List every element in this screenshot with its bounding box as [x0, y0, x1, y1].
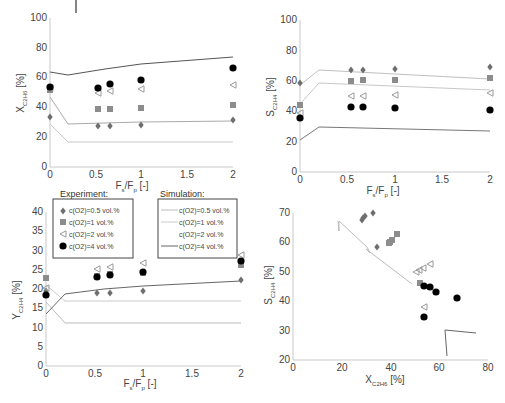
figure: 02040 6080100 00.51 1.52 Fs/Fp [-] XC2H6…: [0, 0, 505, 403]
legend-sim-entry-2: c(O2)=2 vol.%: [179, 231, 224, 239]
y-ticks: 02040 6080100: [280, 14, 297, 177]
svg-text:20: 20: [36, 131, 48, 142]
svg-text:2: 2: [230, 169, 236, 180]
svg-text:1: 1: [392, 174, 398, 185]
x-ticks: 00.51 1.52: [43, 368, 244, 379]
svg-text:25: 25: [32, 264, 44, 275]
y-ticks: 051015 2025303540: [32, 206, 44, 371]
exp-4-markers: [296, 103, 493, 121]
svg-text:100: 100: [280, 14, 297, 25]
svg-text:1: 1: [138, 169, 144, 180]
svg-text:1.5: 1.5: [180, 169, 194, 180]
svg-text:60: 60: [36, 71, 48, 82]
svg-text:40: 40: [279, 295, 291, 306]
svg-text:60: 60: [279, 236, 291, 247]
svg-text:2: 2: [487, 174, 493, 185]
y-axis-label: XC2H6 [%]: [15, 73, 28, 112]
svg-text:20: 20: [336, 362, 348, 373]
svg-text:60: 60: [433, 362, 445, 373]
svg-text:0: 0: [297, 174, 303, 185]
svg-text:1.5: 1.5: [435, 174, 449, 185]
exp-0.5-markers: [359, 209, 379, 250]
exp-2-markers: [47, 82, 236, 96]
x-axis-label: Fs/Fp [-]: [366, 185, 399, 198]
x-ticks: 00.51 1.52: [47, 169, 236, 180]
legend-experiment-title: Experiment:: [60, 189, 108, 199]
legend-sim-entry-1: c(O2)=1 vol.%: [179, 219, 224, 227]
legend-sim-entry-4: c(O2)=4 vol.%: [179, 243, 224, 251]
sim-line-4: [300, 127, 490, 140]
svg-text:10: 10: [32, 322, 44, 333]
svg-text:80: 80: [286, 45, 298, 56]
svg-text:1.5: 1.5: [185, 368, 199, 379]
svg-text:30: 30: [32, 245, 44, 256]
legend-sim-entry-0.5: c(O2)=0.5 vol.%: [179, 207, 229, 215]
svg-text:70: 70: [279, 207, 291, 218]
svg-text:0: 0: [290, 362, 296, 373]
svg-text:15: 15: [32, 302, 44, 313]
svg-text:50: 50: [279, 266, 291, 277]
sim-line-2: [445, 330, 476, 356]
y-ticks: 203040 506070: [279, 207, 291, 365]
svg-text:0: 0: [43, 368, 49, 379]
svg-text:0: 0: [47, 169, 53, 180]
svg-text:80: 80: [36, 42, 48, 53]
svg-text:80: 80: [482, 362, 494, 373]
legend-simulation-title: Simulation:: [160, 189, 205, 199]
chart-selectivity: 02040 6080100 00.51 1.52 Fs/Fp [-] SC2H4…: [265, 14, 494, 198]
svg-text:20: 20: [32, 283, 44, 294]
chart-yield: 051015 2025303540 00.51 1.52 Fs/Fp [-] Y…: [11, 189, 245, 391]
svg-text:30: 30: [279, 325, 291, 336]
exp-0.5-markers: [43, 276, 243, 296]
legend-exp-entry-2: c(O2)=2 vol.%: [69, 231, 114, 239]
y-axis-label: YC2H4 [%]: [11, 280, 24, 319]
x-axis-label: XC2H6 [%]: [365, 374, 404, 387]
svg-text:40: 40: [286, 105, 298, 116]
y-axis-label: SC2H4 [%]: [263, 265, 276, 304]
legend-exp-entry-1: c(O2)=1 vol.%: [69, 219, 114, 227]
svg-text:40: 40: [385, 362, 397, 373]
svg-text:40: 40: [32, 206, 44, 217]
svg-text:2: 2: [238, 368, 244, 379]
svg-text:0.5: 0.5: [340, 174, 354, 185]
svg-text:0.5: 0.5: [88, 368, 102, 379]
svg-text:40: 40: [36, 101, 48, 112]
exp-4-markers: [420, 282, 460, 320]
x-axis-label: Fs/Fp [-]: [123, 378, 156, 391]
exp-2-markers: [297, 90, 493, 116]
sim-line-4: [50, 57, 233, 75]
svg-text:0.5: 0.5: [89, 169, 103, 180]
sim-line-4: [46, 281, 241, 314]
svg-text:35: 35: [32, 225, 44, 236]
x-ticks: 00.51 1.52: [297, 174, 493, 185]
sim-line-1: [338, 221, 412, 284]
y-ticks: 02040 6080100: [30, 12, 47, 172]
y-axis-label: SC2H4 [%]: [265, 77, 278, 116]
legend-exp-entry-4: c(O2)=4 vol.%: [69, 243, 114, 251]
legend-experiment: Experiment: c(O2)=0.5 vol.% c(O2)=1 vol.…: [53, 189, 133, 258]
exp-1-markers: [297, 75, 493, 108]
svg-text:100: 100: [30, 12, 47, 23]
svg-text:20: 20: [286, 136, 298, 147]
legend-exp-entry-0.5: c(O2)=0.5 vol.%: [69, 207, 119, 215]
chart-conversion: 02040 6080100 00.51 1.52 Fs/Fp [-] XC2H6…: [15, 12, 237, 193]
svg-text:5: 5: [37, 341, 43, 352]
sim-line-0.5: [46, 302, 241, 323]
x-ticks: 02040 6080: [290, 362, 494, 373]
chart-selectivity-vs-conversion: 203040 506070 02040 6080 XC2H6 [%] SC2H4…: [263, 207, 494, 387]
svg-text:60: 60: [286, 75, 298, 86]
svg-text:20: 20: [279, 354, 291, 365]
legend-simulation: Simulation: c(O2)=0.5 vol.% c(O2)=1 vol.…: [158, 189, 237, 258]
x-axis-label: Fs/Fp [-]: [115, 180, 148, 193]
